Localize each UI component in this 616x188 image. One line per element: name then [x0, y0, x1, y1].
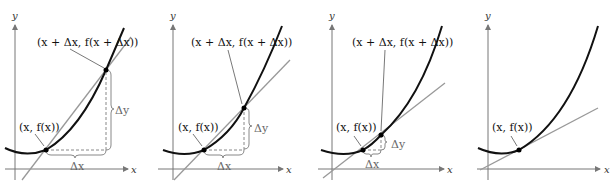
dy-brace: [244, 108, 252, 149]
dx-brace: [363, 150, 381, 157]
curve: [478, 26, 598, 154]
point-x: [202, 148, 207, 153]
leader-line: [70, 49, 104, 68]
point2-label: (x + Δx, f(x + Δx)): [191, 36, 292, 49]
point-x: [517, 148, 522, 153]
dx-brace: [204, 150, 244, 158]
dx-label: Δx: [70, 160, 85, 173]
leader-line: [381, 50, 385, 131]
point-label: (x, f(x)): [336, 121, 377, 134]
point-x-plus-dx: [104, 68, 109, 73]
point2-label: (x + Δx, f(x + Δx)): [37, 36, 138, 49]
panel-3: x y (x, f(x)) (x + Δx, f(x + Δx)) Δy Δx: [318, 10, 453, 180]
leader-line: [228, 50, 242, 104]
y-axis-label: y: [169, 10, 176, 21]
secant-line: [174, 60, 290, 180]
secant-tangent-diagram: x y (x, f(x)) (x + Δx, f(x + Δx)) Δy Δx …: [0, 0, 616, 188]
panel-2: x y (x, f(x)) (x + Δx, f(x + Δx)) Δy Δx: [158, 10, 292, 180]
x-axis-label: x: [604, 164, 610, 175]
leader-line: [354, 136, 361, 146]
panel-4: x y (x, f(x)): [477, 10, 610, 180]
leader-line: [35, 134, 44, 146]
point-x-plus-dx: [242, 106, 247, 111]
panel-1: x y (x, f(x)) (x + Δx, f(x + Δx)) Δy Δx: [5, 10, 138, 180]
point-x: [361, 148, 366, 153]
dx-label: Δx: [365, 158, 380, 171]
dy-brace: [106, 70, 114, 150]
point-label: (x, f(x)): [492, 121, 533, 134]
y-axis-label: y: [11, 10, 18, 21]
point-x-plus-dx: [379, 133, 384, 138]
point-x: [44, 148, 49, 153]
dx-brace: [46, 150, 106, 158]
x-axis-label: x: [447, 164, 453, 175]
dy-label: Δy: [254, 122, 269, 135]
leader-line: [193, 134, 202, 146]
dy-label: Δy: [115, 104, 130, 117]
tangent-line: [480, 108, 598, 170]
point-label: (x, f(x)): [19, 121, 60, 134]
dx-label: Δx: [217, 160, 232, 173]
x-axis-label: x: [286, 164, 292, 175]
leader-line: [511, 136, 517, 146]
point2-label: (x + Δx, f(x + Δx)): [352, 36, 453, 49]
dy-label: Δy: [391, 138, 406, 151]
x-axis-label: x: [131, 164, 137, 175]
y-axis-label: y: [328, 10, 335, 21]
point-label: (x, f(x)): [178, 121, 219, 134]
y-axis-label: y: [484, 10, 491, 21]
